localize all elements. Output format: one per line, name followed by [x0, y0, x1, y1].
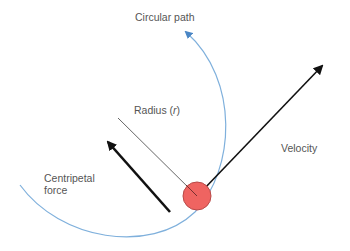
- radius-line: [118, 118, 197, 196]
- velocity-label: Velocity: [281, 142, 317, 154]
- velocity-arrow: [203, 66, 322, 190]
- diagram-canvas: [0, 0, 350, 251]
- centripetal-force-label-line1: Centripetal: [44, 172, 95, 184]
- circular-path-label: Circular path: [135, 11, 195, 23]
- centripetal-force-arrow: [108, 142, 170, 212]
- centripetal-force-label: Centripetal force: [44, 172, 95, 196]
- radius-label: Radius (r): [134, 104, 180, 116]
- centripetal-force-label-line2: force: [44, 184, 95, 196]
- radius-label-prefix: Radius (: [134, 104, 173, 116]
- radius-label-suffix: ): [177, 104, 181, 116]
- circular-motion-diagram: Circular path Radius (r) Velocity Centri…: [0, 0, 350, 251]
